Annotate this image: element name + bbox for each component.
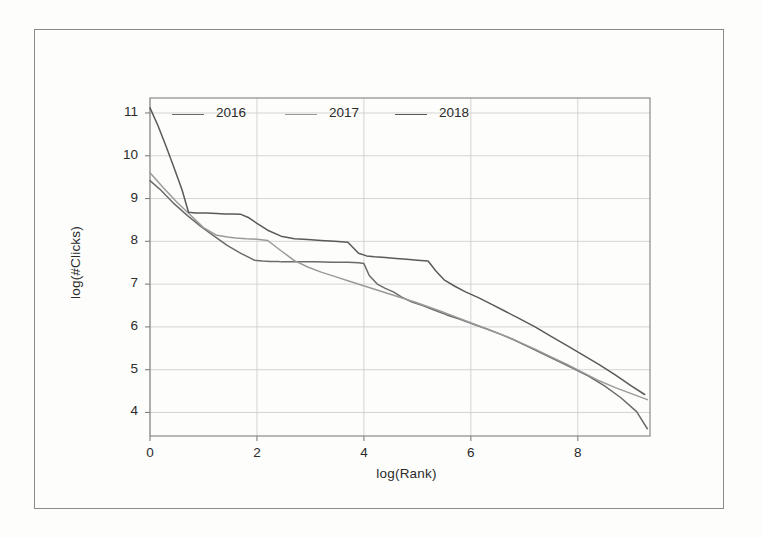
legend-swatch-2018	[395, 114, 427, 115]
y-tick-label: 10	[112, 147, 138, 162]
y-tick-label: 6	[112, 318, 138, 333]
legend-swatch-2016	[172, 114, 204, 115]
x-tick-label: 6	[456, 445, 486, 460]
x-tick-label: 2	[242, 445, 272, 460]
series-line-2016	[150, 181, 647, 429]
y-tick-label: 7	[112, 275, 138, 290]
y-tick-label: 4	[112, 403, 138, 418]
series-line-2017	[150, 173, 647, 400]
legend-label-2017: 2017	[329, 105, 359, 120]
x-tick-label: 0	[135, 445, 165, 460]
x-axis-title: log(Rank)	[0, 466, 763, 481]
plot-svg	[0, 0, 763, 538]
y-tick-label: 11	[112, 104, 138, 119]
plot-frame	[150, 98, 650, 436]
series-line-2018	[150, 108, 645, 395]
y-tick-label: 8	[112, 232, 138, 247]
legend-label-2016: 2016	[216, 105, 246, 120]
x-tick-label: 8	[563, 445, 593, 460]
x-axis-title-text: log(Rank)	[376, 466, 436, 481]
x-tick-label: 4	[349, 445, 379, 460]
y-tick-label: 9	[112, 190, 138, 205]
chart-page: log(#Clicks) log(Rank) 1110987654 02468 …	[0, 0, 763, 538]
legend-label-2018: 2018	[439, 105, 469, 120]
chart-canvas	[0, 0, 763, 538]
y-tick-label: 5	[112, 361, 138, 376]
y-axis-title: log(#Clicks)	[68, 183, 83, 343]
legend-swatch-2017	[285, 114, 317, 115]
